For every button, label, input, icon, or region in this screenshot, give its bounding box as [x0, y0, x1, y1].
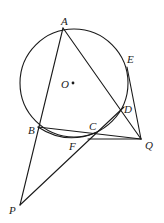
segment-a-p [20, 28, 63, 205]
label-q: Q [145, 140, 153, 151]
center-dot-o [72, 82, 75, 85]
label-c: C [89, 121, 96, 132]
label-a: A [61, 16, 68, 27]
label-f: F [69, 141, 76, 152]
diagram-canvas [0, 0, 164, 223]
label-o: O [61, 79, 69, 90]
geometry-diagram: A O E D B C F Q P [0, 0, 164, 223]
segment-a-q [63, 28, 141, 139]
label-p: P [9, 205, 16, 216]
label-e: E [127, 54, 134, 65]
label-d: D [124, 104, 132, 115]
label-b: B [28, 125, 35, 136]
